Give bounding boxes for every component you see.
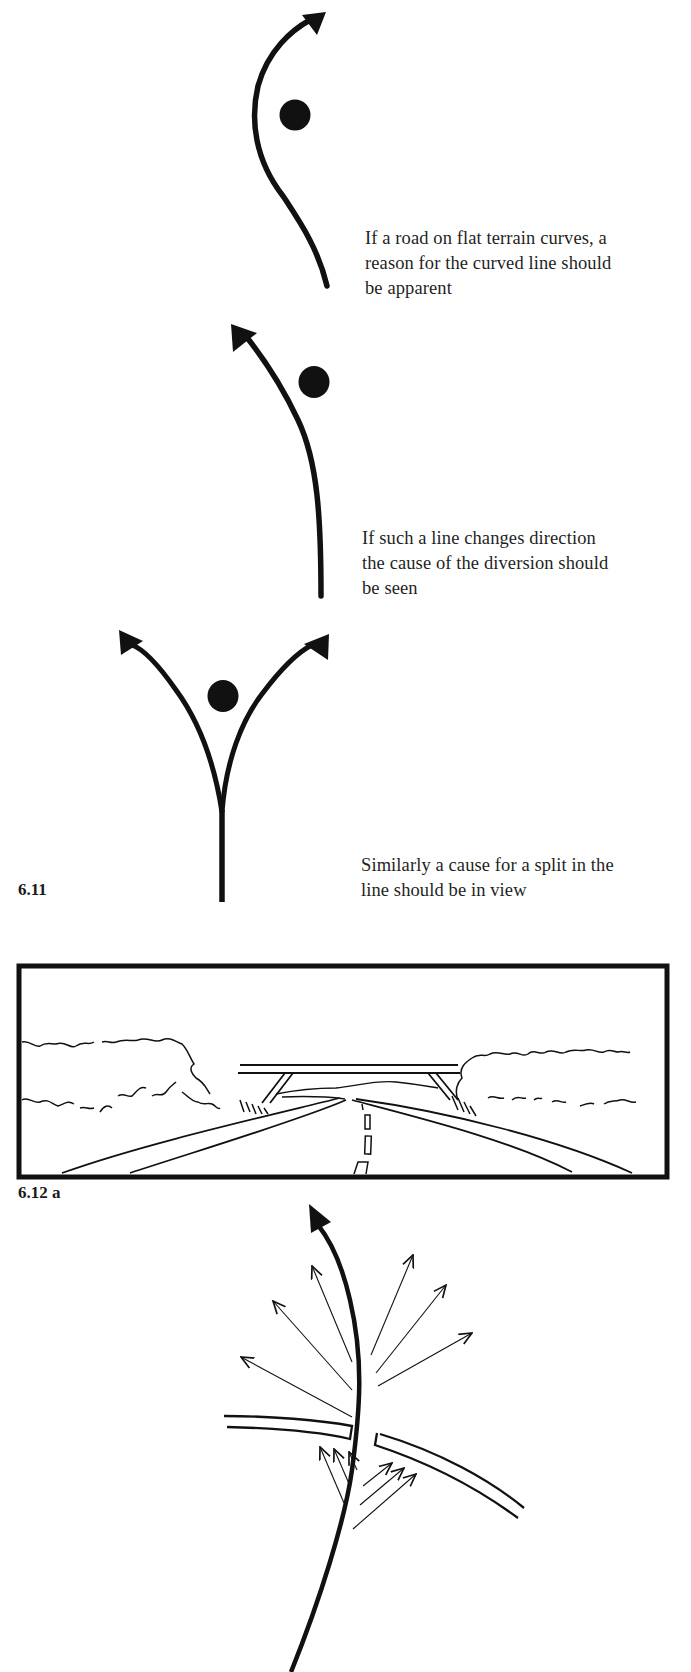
direction-diagram — [231, 324, 330, 596]
sight-arrow — [360, 1468, 404, 1505]
caption-line: be seen — [362, 576, 608, 601]
bridge-deck — [238, 1065, 460, 1073]
caption-line: the cause of the diversion should — [362, 551, 608, 576]
right-embankment-hatch — [452, 1096, 476, 1116]
obstacle-dot — [208, 680, 239, 712]
bridge-wall-left — [224, 1416, 352, 1439]
left-treeline-lower — [22, 1082, 220, 1112]
landscape-sketch — [19, 966, 667, 1177]
right-treeline — [456, 1050, 630, 1100]
road-path-arrow — [291, 1225, 359, 1672]
caption-line: be apparent — [365, 276, 611, 301]
caption-curve: If a road on flat terrain curves, a reas… — [365, 226, 611, 301]
bridge-wall-right — [375, 1433, 524, 1518]
sightline-diagram — [224, 1204, 524, 1672]
split-road-left — [132, 645, 222, 812]
curved-road-arrow — [255, 20, 327, 286]
sight-arrow — [334, 1449, 350, 1486]
sight-arrow — [371, 1255, 413, 1355]
sight-arrow — [378, 1333, 472, 1386]
caption-split: Similarly a cause for a split in the lin… — [361, 853, 614, 903]
caption-line: If such a line changes direction — [362, 526, 608, 551]
curve-diagram — [255, 12, 327, 286]
sight-arrow — [241, 1357, 352, 1417]
obstacle-dot — [280, 100, 311, 131]
sight-arrow — [376, 1285, 446, 1373]
sight-arrow — [273, 1301, 352, 1390]
obstacle-dot — [299, 366, 330, 398]
road-left-edge-inner — [130, 1100, 346, 1173]
caption-line: reason for the curved line should — [365, 251, 611, 276]
figure-label-6-11: 6.11 — [18, 880, 47, 900]
figure-label-6-12a: 6.12 a — [18, 1183, 61, 1203]
sight-arrow — [353, 1474, 416, 1529]
bridge-left-support — [262, 1073, 293, 1103]
split-diagram — [119, 630, 329, 902]
split-road-right — [222, 645, 312, 812]
left-treeline — [22, 1039, 210, 1094]
caption-line: line should be in view — [361, 878, 614, 903]
centre-line-dash — [365, 1115, 370, 1129]
centre-line-dash — [362, 1104, 363, 1110]
caption-line: If a road on flat terrain curves, a — [365, 226, 611, 251]
centre-line-dash — [354, 1162, 368, 1174]
caption-line: Similarly a cause for a split in the — [361, 853, 614, 878]
road-shoulder-left — [282, 1097, 345, 1099]
sketch-frame — [19, 966, 667, 1177]
caption-direction: If such a line changes direction the cau… — [362, 526, 608, 601]
sight-arrow — [320, 1447, 344, 1503]
distant-horizon — [276, 1082, 438, 1094]
road-right-edge-inner — [352, 1100, 572, 1172]
road-right-edge-outer — [356, 1099, 632, 1173]
sight-arrow — [363, 1463, 392, 1486]
centre-line-dash — [365, 1136, 372, 1154]
right-treeline-lower — [488, 1097, 636, 1106]
road-left-edge-outer — [62, 1098, 340, 1173]
